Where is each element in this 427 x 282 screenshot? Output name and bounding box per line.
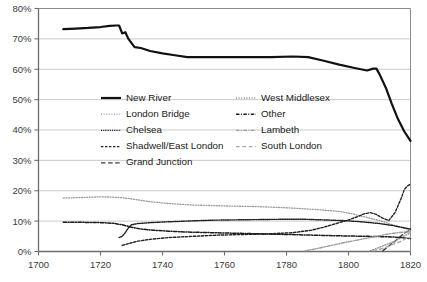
y-tick-label: 10% [12,216,32,227]
y-tick-label: 50% [12,94,32,105]
chart-container: 0%10%20%30%40%50%60%70%80% 1700172017401… [0,0,427,282]
legend-label: Grand Junction [126,156,192,167]
y-tick-label: 80% [12,3,32,14]
legend-label: Other [261,108,286,119]
x-tick-label: 1800 [338,259,359,270]
x-tick-label: 1820 [400,259,421,270]
legend-label: New River [126,92,172,103]
y-tick-label: 0% [18,246,32,257]
x-tick-label: 1720 [90,259,111,270]
y-tick-label: 40% [12,124,32,135]
legend-label: Shadwell/East London [126,140,224,151]
x-tick-label: 1780 [276,259,297,270]
y-tick-label: 30% [12,155,32,166]
line-chart: 0%10%20%30%40%50%60%70%80% 1700172017401… [0,0,427,282]
x-tick-label: 1700 [28,259,49,270]
legend-label: Lambeth [261,124,299,135]
x-tick-label: 1760 [214,259,235,270]
legend-label: London Bridge [126,108,190,119]
y-tick-label: 60% [12,64,32,75]
y-tick-label: 70% [12,33,32,44]
legend-label: Chelsea [126,124,162,135]
x-tick-label: 1740 [152,259,173,270]
legend-label: West Middlesex [261,92,330,103]
legend-label: South London [261,140,322,151]
y-tick-label: 20% [12,185,32,196]
